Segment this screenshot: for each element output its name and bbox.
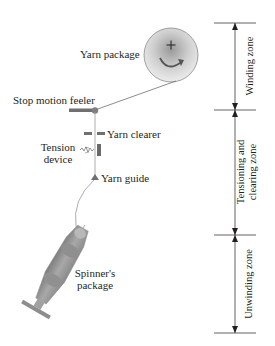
- label-yarn-guide: Yarn guide: [101, 172, 149, 184]
- label-spinners-package: Spinner's package: [71, 267, 119, 291]
- label-stop-motion-feeler: Stop motion feeler: [13, 94, 95, 106]
- yarn-path-lower: [75, 180, 94, 231]
- label-winding-zone: Winding zone: [244, 21, 256, 111]
- stop-motion-feeler: [69, 107, 98, 113]
- yarn-guide-icon: [91, 174, 99, 180]
- label-tensioning-clearing-zone: Tensioning and clearing zone: [235, 127, 259, 217]
- label-tension-device: Tension device: [38, 141, 78, 165]
- yarn-clearer: [84, 132, 105, 135]
- label-yarn-package: Yarn package: [80, 48, 140, 60]
- yarn-package: [144, 28, 198, 82]
- tension-device: [80, 144, 101, 156]
- yarn-path-upper: [95, 81, 176, 110]
- label-unwinding-zone: Unwinding zone: [243, 234, 255, 334]
- label-yarn-clearer: Yarn clearer: [107, 128, 161, 140]
